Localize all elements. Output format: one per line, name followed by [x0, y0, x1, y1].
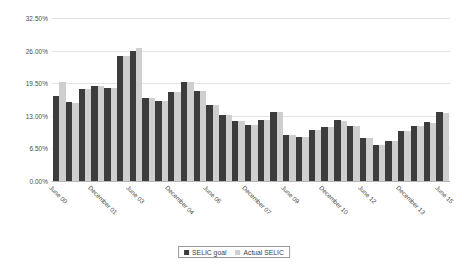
y-axis-tick-label: 6.50% — [29, 145, 48, 152]
bar-group — [142, 18, 155, 181]
bar-series-container — [52, 18, 450, 181]
legend-label: SELIC goal — [192, 249, 226, 256]
bar-group — [232, 18, 245, 181]
x-axis-tick-label: December 01 — [87, 184, 119, 216]
chart-legend: SELIC goalActual SELIC — [178, 246, 290, 258]
y-axis-tick-label: 13.00% — [26, 112, 48, 119]
bar-group — [117, 18, 130, 181]
x-axis-tick-label: June 15 — [434, 184, 455, 205]
y-axis-tick-label: 26.00% — [26, 47, 48, 54]
bar-group — [245, 18, 258, 181]
x-axis-tick-label: June 09 — [280, 184, 301, 205]
legend-label: Actual SELIC — [243, 249, 283, 256]
bar-actual — [443, 113, 449, 181]
bar-group — [66, 18, 79, 181]
bar-group — [436, 18, 449, 181]
y-axis-tick-label: 19.50% — [26, 80, 48, 87]
bar-group — [373, 18, 386, 181]
bar-group — [385, 18, 398, 181]
bar-group — [411, 18, 424, 181]
bar-group — [53, 18, 66, 181]
bar-group — [155, 18, 168, 181]
bar-group — [424, 18, 437, 181]
bar-group — [334, 18, 347, 181]
bar-group — [219, 18, 232, 181]
bar-group — [91, 18, 104, 181]
x-axis-tick-label: December 07 — [241, 184, 273, 216]
bar-group — [130, 18, 143, 181]
y-axis: 0.00%6.50%13.00%19.50%26.00%32.50% — [0, 0, 52, 200]
y-axis-tick-label: 0.00% — [29, 178, 48, 185]
bar-group — [79, 18, 92, 181]
legend-swatch-icon — [235, 250, 240, 255]
bar-group — [258, 18, 271, 181]
bar-group — [360, 18, 373, 181]
x-axis-tick-label: June 12 — [357, 184, 378, 205]
y-axis-tick-label: 32.50% — [26, 15, 48, 22]
selic-bar-chart: 0.00%6.50%13.00%19.50%26.00%32.50% June … — [0, 0, 468, 270]
bar-group — [270, 18, 283, 181]
bar-group — [104, 18, 117, 181]
bar-group — [194, 18, 207, 181]
bar-group — [321, 18, 334, 181]
bar-group — [283, 18, 296, 181]
plot-area — [52, 18, 450, 181]
bar-group — [206, 18, 219, 181]
bar-group — [168, 18, 181, 181]
bar-group — [309, 18, 322, 181]
bar-group — [181, 18, 194, 181]
x-axis-tick-label: June 06 — [203, 184, 224, 205]
legend-swatch-icon — [184, 250, 189, 255]
x-axis-tick-label: June 03 — [125, 184, 146, 205]
x-axis-tick-label: June 00 — [48, 184, 69, 205]
legend-item[interactable]: SELIC goal — [184, 249, 226, 256]
x-axis: June 00December 01June 03December 04June… — [52, 182, 450, 242]
bar-group — [296, 18, 309, 181]
bar-group — [398, 18, 411, 181]
x-axis-tick-label: December 10 — [318, 184, 350, 216]
bar-group — [347, 18, 360, 181]
legend-item[interactable]: Actual SELIC — [235, 249, 283, 256]
x-axis-tick-label: December 04 — [164, 184, 196, 216]
x-axis-tick-label: December 13 — [395, 184, 427, 216]
